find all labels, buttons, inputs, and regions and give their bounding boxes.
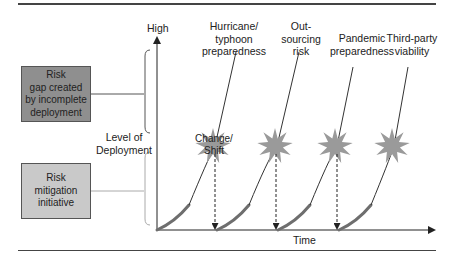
upper-bracket: [145, 50, 150, 133]
lower-bracket: [145, 152, 150, 225]
y-axis-label: Level of Deployment: [96, 131, 152, 156]
change-shift-star-icon: [257, 128, 292, 163]
initiative-label-line: viability: [382, 45, 442, 58]
initiative-label-line: Third-party: [382, 32, 442, 45]
change-shift-line-1: Change/: [191, 133, 237, 145]
change-shift-line-2: Shift: [191, 145, 237, 157]
change-shift-star-icon: [374, 128, 409, 163]
deployment-curve-base: [217, 205, 249, 230]
deployment-curve: [310, 67, 353, 205]
change-shift-label: Change/ Shift: [191, 133, 237, 157]
initiative-label-line: risk: [276, 45, 326, 58]
initiative-label-line: typhoon: [200, 33, 268, 46]
initiative-label-hurricane: Hurricane/ typhoon preparedness: [200, 20, 268, 58]
y-axis-high-label: High: [147, 22, 169, 35]
y-axis-label-line-1: Level of: [96, 131, 152, 144]
initiative-label-line: Out-: [276, 20, 326, 33]
initiative-label-outsourcing: Out- sourcing risk: [276, 20, 326, 58]
deployment-curve-base: [157, 205, 189, 230]
initiative-label-line: sourcing: [276, 33, 326, 46]
x-axis-label: Time: [293, 234, 316, 247]
deployment-curve: [189, 52, 236, 205]
change-shift-star-icon: [317, 128, 352, 163]
y-axis-label-line-2: Deployment: [96, 144, 152, 157]
initiative-label-line: Hurricane/: [200, 20, 268, 33]
deployment-curve: [371, 67, 408, 205]
deployment-curve: [249, 52, 299, 205]
deployment-curve-base: [339, 205, 371, 230]
deployment-curve-base: [278, 205, 310, 230]
initiative-label-third-party: Third-party viability: [382, 32, 442, 57]
initiative-label-line: preparedness: [200, 45, 268, 58]
